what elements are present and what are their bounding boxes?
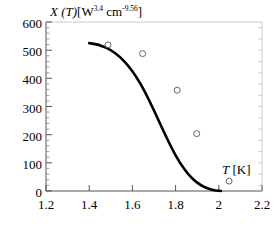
y-tick-label-600: 600 — [8, 16, 42, 32]
chart-figure: 0 100 200 300 400 500 600 1.2 1.4 1.6 1.… — [0, 0, 279, 228]
x-tick-label-1-2: 1.2 — [26, 197, 66, 213]
data-point — [105, 42, 111, 48]
y-axis-title-unit-mid: cm — [106, 4, 122, 19]
x-tick-label-1-6: 1.6 — [112, 197, 152, 213]
x-tick-label-1-8: 1.8 — [156, 197, 196, 213]
y-tick-label-300: 300 — [8, 101, 42, 117]
y-axis-title-symbol: X (T) — [50, 4, 77, 19]
y-axis-title-exponent-2: -9.56 — [122, 4, 138, 13]
x-tick-label-2-2: 2.2 — [242, 197, 279, 213]
y-tick-label-400: 400 — [8, 72, 42, 88]
data-point-markers — [105, 42, 232, 184]
data-point — [174, 87, 180, 93]
x-axis-title-unit: [K] — [232, 162, 250, 177]
data-point — [226, 178, 232, 184]
data-curve — [89, 43, 221, 191]
x-axis-title: T [K] — [222, 162, 251, 178]
y-axis-title-exponent-1: 3.4 — [94, 4, 103, 13]
y-axis-title-unit-close: ] — [138, 4, 142, 19]
x-tick-label-2: 2 — [199, 197, 239, 213]
data-point — [194, 131, 200, 137]
y-axis-title-unit-open: [W — [77, 4, 94, 19]
y-tick-label-100: 100 — [8, 157, 42, 173]
x-tick-label-1-4: 1.4 — [69, 197, 109, 213]
y-axis-title: X (T)[W3.4 cm-9.56] — [50, 4, 142, 20]
y-axis-major-ticks — [46, 22, 52, 191]
y-tick-label-500: 500 — [8, 44, 42, 60]
y-tick-label-200: 200 — [8, 129, 42, 145]
data-point — [140, 51, 146, 57]
x-axis-major-ticks — [46, 185, 262, 191]
right-axis-minor-ticks — [259, 28, 263, 186]
